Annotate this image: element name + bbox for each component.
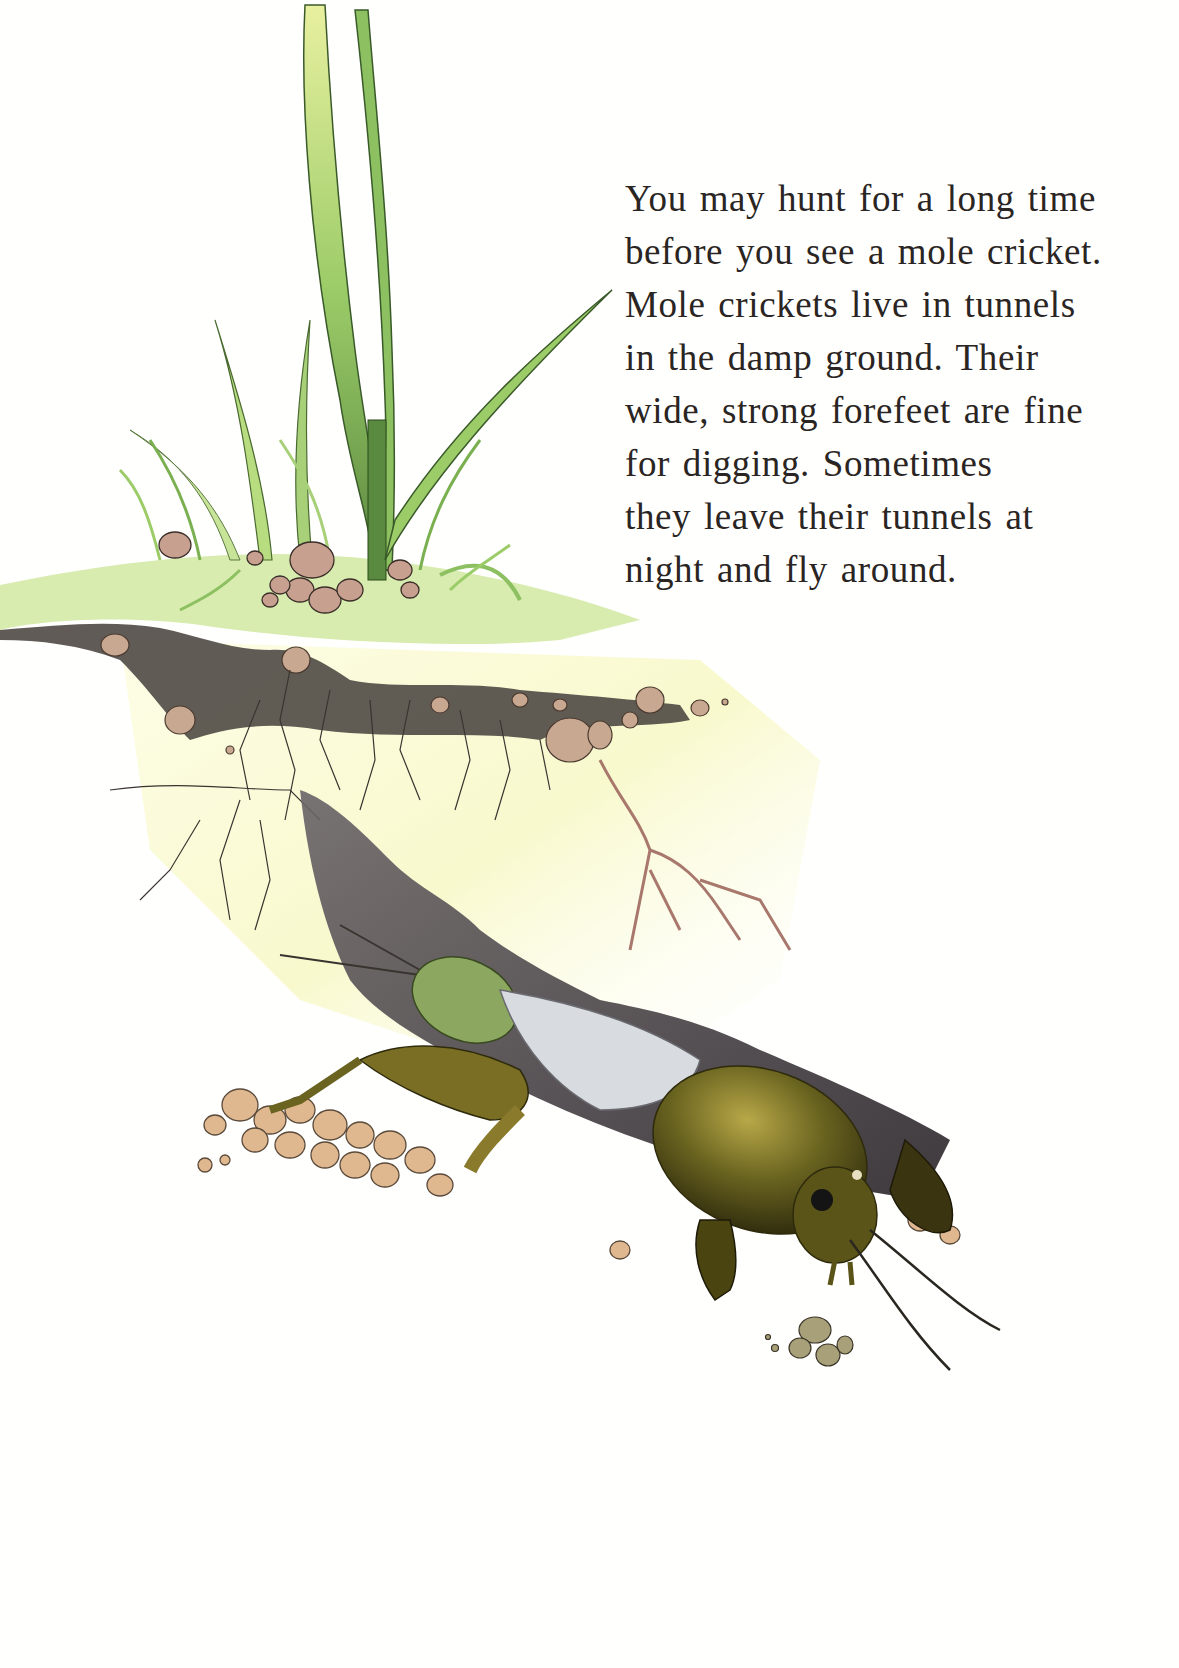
text-line-8: night and fly around.: [625, 543, 1145, 596]
story-text: You may hunt for a long time before you …: [625, 172, 1145, 596]
grass-blades: [120, 5, 612, 610]
text-line-3: Mole crickets live in tunnels: [625, 278, 1145, 331]
pebble-cluster-small: [766, 1317, 854, 1366]
text-line-1: You may hunt for a long time: [625, 172, 1145, 225]
text-line-5: wide, strong forefeet are fine: [625, 384, 1145, 437]
text-line-2: before you see a mole cricket.: [625, 225, 1145, 278]
text-line-6: for digging. Sometimes: [625, 437, 1145, 490]
text-line-4: in the damp ground. Their: [625, 331, 1145, 384]
text-line-7: they leave their tunnels at: [625, 490, 1145, 543]
book-page: You may hunt for a long time before you …: [0, 0, 1179, 1668]
